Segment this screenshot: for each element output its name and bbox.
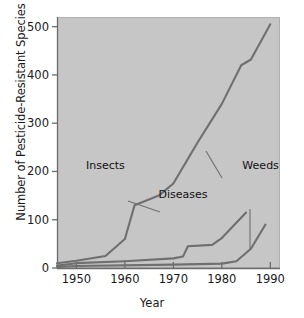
x-tick-label: 1960 [110,272,139,286]
x-tick-label: 1980 [207,272,236,286]
chart-canvas: 0100200300400500 19501960197019801990 In… [0,0,304,318]
y-axis-title: Number of Pesticide-Resistant Species [14,0,28,237]
y-tick-label: 300 [27,116,49,130]
x-tick-label: 1970 [159,272,188,286]
y-tick-label: 400 [27,68,49,82]
x-tick-label: 1950 [62,272,91,286]
annotation-diseases: Diseases [159,188,208,201]
y-tick-label: 200 [27,164,49,178]
y-tick-label: 500 [27,20,49,34]
y-tick-label: 100 [27,213,49,227]
x-tick-label: 1990 [256,272,285,286]
annotation-weeds: Weeds [242,159,279,172]
plot-background [57,17,280,268]
annotation-insects: Insects [86,159,125,172]
y-tick-label: 0 [42,261,49,275]
chart-figure: 0100200300400500 19501960197019801990 In… [0,0,304,318]
y-axis-ticks: 0100200300400500 [27,20,57,275]
x-axis-title: Year [0,296,304,310]
